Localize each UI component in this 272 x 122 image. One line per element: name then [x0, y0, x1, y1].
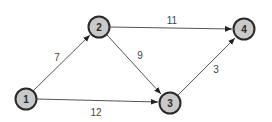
edge-weight-2-3: 9 [137, 50, 143, 61]
graph-diagram: 7 11 9 12 3 1 2 3 4 [0, 0, 272, 122]
edge-weight-3-4: 3 [213, 64, 219, 75]
edge-1-to-3 [37, 99, 158, 102]
edge-1-to-2 [33, 35, 90, 91]
edge-2-to-4 [110, 27, 232, 29]
node-4: 4 [234, 19, 255, 40]
edge-3-to-4 [178, 38, 235, 95]
edge-2-to-3 [107, 35, 161, 94]
node-label: 1 [23, 94, 29, 105]
node-label: 4 [241, 24, 247, 35]
node-2: 2 [89, 17, 110, 38]
node-3: 3 [160, 93, 181, 114]
node-label: 3 [167, 98, 173, 109]
edge-weight-2-4: 11 [167, 15, 178, 26]
edge-weight-1-3: 12 [90, 107, 102, 118]
node-1: 1 [16, 89, 37, 110]
edges [33, 27, 235, 102]
edge-labels: 7 11 9 12 3 [54, 15, 219, 118]
node-label: 2 [96, 22, 102, 33]
edge-weight-1-2: 7 [54, 52, 60, 63]
